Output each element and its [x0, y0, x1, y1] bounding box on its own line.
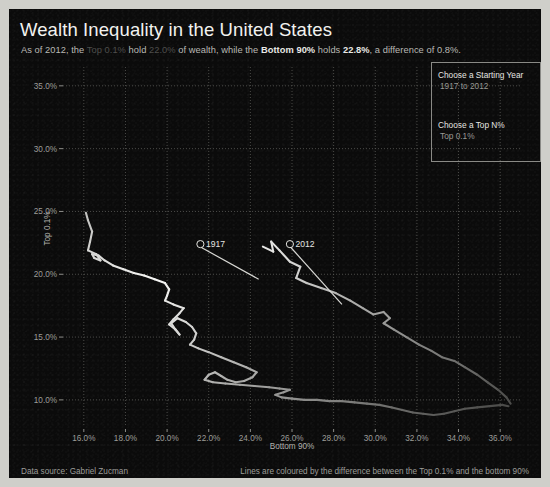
series-segment: [240, 385, 255, 386]
series-segment: [86, 213, 88, 221]
series-segment: [90, 232, 92, 242]
annotation-label: 2012: [295, 239, 314, 249]
series-segment: [88, 220, 92, 231]
series-segment: [290, 262, 300, 267]
series-segment: [255, 386, 270, 387]
subtitle-part-4: holds: [315, 45, 343, 55]
series-segment: [350, 301, 362, 309]
series-segment: [477, 375, 487, 383]
series-segment: [477, 406, 489, 407]
annotation-label: 1917: [206, 239, 225, 249]
series-segment: [488, 382, 498, 390]
series-segment: [379, 405, 391, 408]
series-segment: [209, 352, 221, 357]
series-segment: [213, 382, 225, 383]
series-segment: [317, 400, 329, 401]
series-segment: [192, 327, 196, 333]
y-axis-title: Top 0.1%: [43, 199, 52, 259]
outer-frame: Wealth Inequality in the United States A…: [0, 0, 550, 487]
subtitle-part-3: of wealth, while the: [176, 45, 261, 55]
subtitle-part-5: , a difference of 0.8%.: [370, 45, 461, 55]
series-segment: [392, 407, 402, 410]
series-segment: [198, 348, 208, 352]
series-segment: [454, 409, 464, 412]
series-segment: [236, 381, 244, 382]
series-segment: [178, 318, 186, 322]
series-segment: [225, 384, 240, 385]
series-segment: [190, 345, 198, 349]
series-segment: [363, 308, 373, 314]
series-segment: [113, 265, 123, 269]
subtitle-part-2: hold: [126, 45, 149, 55]
series-segment: [221, 376, 227, 380]
subtitle-part-1: As of 2012, the: [21, 45, 87, 55]
series-segment: [282, 397, 292, 398]
series-segment: [173, 304, 183, 308]
series-segment: [144, 276, 154, 280]
series-segment: [88, 242, 90, 251]
series-segment: [221, 357, 233, 362]
series-segment: [442, 357, 454, 361]
series-segment: [123, 269, 133, 273]
series-segment: [384, 318, 390, 323]
series-segment: [434, 414, 444, 415]
series-segment: [155, 279, 165, 283]
series-segment: [105, 260, 113, 265]
series-segment: [465, 407, 477, 408]
plot-svg: 19172012: [63, 67, 521, 425]
annotation-leader-line: [291, 248, 342, 305]
series-segment: [246, 367, 256, 372]
series-segment: [498, 390, 506, 398]
series-segment: [307, 283, 322, 288]
chart-subtitle: As of 2012, the Top 0.1% hold 22.0% of w…: [21, 45, 461, 55]
subtitle-top-share-value: 22.0%: [149, 45, 176, 55]
series-segment: [384, 323, 394, 329]
series-segment: [502, 405, 508, 406]
series-segment: [227, 380, 235, 383]
series-segment: [413, 412, 423, 413]
series-segment: [423, 414, 433, 415]
series-segment: [354, 402, 366, 403]
series-segment: [292, 399, 304, 400]
series-segment: [402, 410, 412, 413]
series-segment: [165, 301, 173, 305]
series-segment: [465, 367, 477, 375]
series-segment: [269, 387, 279, 388]
series-segment: [394, 330, 406, 338]
data-source-note: Data source: Gabriel Zucman: [21, 467, 128, 476]
x-axis-title: Bottom 90%: [63, 442, 521, 451]
annotation-leader-line: [201, 248, 258, 280]
series-segment: [490, 405, 502, 406]
y-tick-label: 15.0%: [34, 333, 57, 342]
series-segment: [215, 372, 221, 376]
annotation-marker: [197, 241, 204, 248]
series-segment: [444, 411, 454, 414]
series-segment: [134, 273, 144, 276]
plot-area: 19172012: [63, 67, 521, 425]
series-segment: [431, 351, 441, 357]
subtitle-top-share-label: Top 0.1%: [87, 45, 126, 55]
series-segment: [342, 401, 354, 402]
series-segment: [244, 377, 252, 381]
x-axis-ticks: 16.0%18.0%20.0%22.0%24.0%26.0%28.0%30.0%…: [63, 429, 521, 443]
subtitle-bottom-share-label: Bottom 90%: [261, 45, 315, 55]
subtitle-bottom-share-value: 22.8%: [343, 45, 370, 55]
chart-canvas: Wealth Inequality in the United States A…: [9, 9, 541, 478]
y-tick-label: 30.0%: [34, 145, 57, 154]
series-segment: [234, 362, 246, 367]
series-segment: [296, 278, 306, 283]
series-segment: [454, 361, 464, 367]
series-segment: [419, 345, 431, 351]
y-tick-label: 10.0%: [34, 396, 57, 405]
annotation-marker: [286, 241, 293, 248]
series-segment: [296, 267, 300, 278]
series-segment: [384, 312, 390, 318]
page-title: Wealth Inequality in the United States: [20, 19, 332, 41]
y-tick-label: 20.0%: [34, 270, 57, 279]
colour-legend-note: Lines are coloured by the difference bet…: [240, 467, 529, 476]
series-segment: [205, 380, 213, 383]
series-segment: [373, 312, 383, 315]
series-segment: [367, 404, 379, 405]
series-segment: [186, 322, 192, 327]
series-segment: [280, 250, 290, 261]
